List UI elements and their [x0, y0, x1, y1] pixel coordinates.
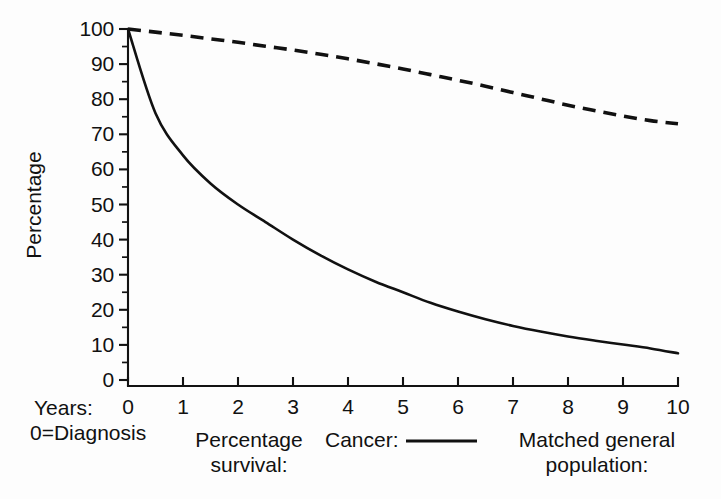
y-tick-label-60: 60 [52, 158, 114, 179]
x-tick-label-1: 1 [153, 396, 213, 417]
y-tick-label-100: 100 [52, 18, 114, 39]
x-tick-label-10: 10 [648, 396, 708, 417]
series-matched-general-population [128, 29, 678, 124]
legend-group-label-line2: survival: [184, 453, 314, 477]
x-tick-label-6: 6 [428, 396, 488, 417]
x-tick-label-4: 4 [318, 396, 378, 417]
x-tick-label-3: 3 [263, 396, 323, 417]
x-axis-prefix-label: Years: [34, 396, 93, 420]
y-axis-group [119, 29, 128, 381]
x-tick-label-2: 2 [208, 396, 268, 417]
y-tick-label-20: 20 [52, 299, 114, 320]
x-tick-label-9: 9 [593, 396, 653, 417]
y-tick-label-10: 10 [52, 334, 114, 355]
x-tick-label-0: 0 [98, 396, 158, 417]
y-axis-title: Percentage [22, 151, 46, 258]
y-tick-label-40: 40 [52, 229, 114, 250]
x-major-ticks [128, 377, 678, 386]
x-axis-group [128, 377, 678, 386]
y-tick-label-90: 90 [52, 53, 114, 74]
y-tick-label-0: 0 [52, 369, 114, 390]
series-cancer [128, 29, 678, 353]
y-tick-label-50: 50 [52, 194, 114, 215]
legend-entry-matched-label-line1: Matched general [497, 428, 697, 452]
y-tick-label-30: 30 [52, 264, 114, 285]
legend-entry-cancer-label: Cancer: [325, 428, 399, 452]
x-tick-label-5: 5 [373, 396, 433, 417]
y-tick-label-70: 70 [52, 123, 114, 144]
legend-entry-matched-label-line2: population: [497, 453, 697, 477]
legend-group-label-line1: Percentage [184, 428, 314, 452]
figure-container: 0102030405060708090100 012345678910 Perc… [0, 0, 721, 499]
x-tick-label-7: 7 [483, 396, 543, 417]
y-tick-label-80: 80 [52, 88, 114, 109]
x-tick-label-8: 8 [538, 396, 598, 417]
x-axis-note-label: 0=Diagnosis [30, 421, 146, 445]
